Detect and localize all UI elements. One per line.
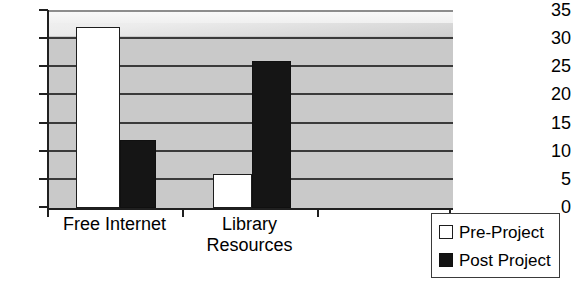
hollow-square-icon [439,225,453,239]
legend-item-post-project[interactable]: Post Project [439,247,551,273]
bar-chart: 35 30 25 20 15 10 5 0 [0,0,571,284]
y-tick-label: 30 [531,29,571,47]
x-category-label-line: Free Internet [47,214,182,235]
y-tick-label: 15 [531,114,571,132]
bar-pre-project-free-internet[interactable] [76,27,120,208]
y-tick-label: 5 [531,170,571,188]
x-category-label-library-resources: Library Resources [182,214,317,256]
filled-square-icon [439,253,453,267]
x-category-label-line: Resources [182,235,317,256]
legend-item-label: Pre-Project [459,224,544,241]
y-tick-label: 10 [531,142,571,160]
legend-item-label: Post Project [459,252,551,269]
x-tick-mark [317,208,319,217]
legend-item-pre-project[interactable]: Pre-Project [439,219,544,245]
y-tick-label: 35 [531,1,571,19]
x-category-label-free-internet: Free Internet [47,214,182,235]
plot-top-border [49,10,453,12]
bar-post-project-free-internet[interactable] [120,140,156,208]
bar-pre-project-library-resources[interactable] [213,174,252,208]
bar-post-project-library-resources[interactable] [252,61,291,208]
plot-area [47,10,453,210]
legend: Pre-Project Post Project [431,213,560,278]
y-tick-label: 20 [531,85,571,103]
x-category-label-line: Library [182,214,317,235]
y-tick-label: 25 [531,57,571,75]
